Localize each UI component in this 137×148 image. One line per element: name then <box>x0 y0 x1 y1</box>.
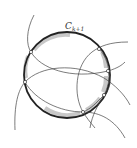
point <box>97 47 100 50</box>
point <box>81 110 84 113</box>
point <box>23 80 26 83</box>
other-circles <box>15 15 130 138</box>
circle-label: Ck+1 <box>65 21 84 32</box>
shaded-arcs <box>25 35 106 115</box>
circle-diagram: Ck+1 <box>0 0 137 148</box>
point <box>106 69 109 72</box>
point <box>29 50 32 53</box>
main-circle <box>24 32 110 118</box>
point <box>102 93 105 96</box>
